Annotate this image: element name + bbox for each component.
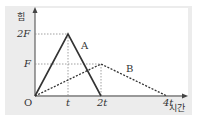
tick-F: F <box>24 59 31 69</box>
tick-2t: 2t <box>97 98 107 108</box>
tick-2F: 2F <box>17 29 30 39</box>
series-B-label: B <box>126 64 133 74</box>
tick-4t: 4t <box>163 98 173 108</box>
x-axis-arrow-icon <box>182 94 188 99</box>
tick-t: t <box>66 98 70 108</box>
y-axis-arrow-icon <box>33 7 38 13</box>
y-axis-label: 힘 <box>17 13 25 22</box>
origin-label: O <box>24 98 32 108</box>
series-A-label: A <box>81 41 88 51</box>
